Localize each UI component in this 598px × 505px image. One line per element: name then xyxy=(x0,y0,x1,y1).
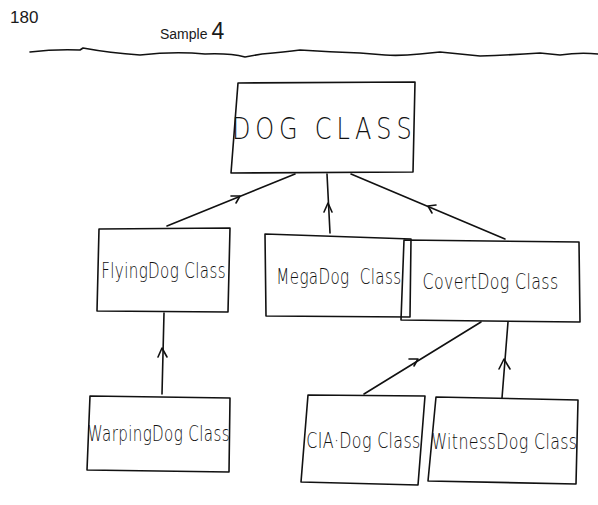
node-dog-class: DOG CLASS xyxy=(235,88,413,168)
header-rule xyxy=(30,48,598,57)
node-witnessdog-class: WitnessDog Class xyxy=(430,400,578,482)
node-covertdog-class: CovertDog Class xyxy=(402,242,580,320)
edge-warping-to-flying xyxy=(162,313,164,394)
node-ciadog-class: CIA·Dog Class xyxy=(303,398,423,482)
node-flyingdog-class: FlyingDog Class xyxy=(97,232,231,310)
edge-flying-to-dog xyxy=(167,174,295,226)
edge-cia-to-covert xyxy=(364,322,481,394)
node-megadog-class: MegaDog Class xyxy=(266,238,412,316)
node-warpingdog-class: WarpingDog Class xyxy=(88,398,230,470)
